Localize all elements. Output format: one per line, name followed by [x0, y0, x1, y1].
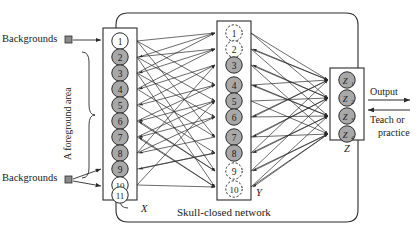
- svg-text:8: 8: [118, 149, 123, 159]
- svg-text:Z: Z: [343, 94, 348, 104]
- layer-y-label: Y: [256, 187, 262, 198]
- svg-text:11: 11: [116, 191, 125, 201]
- backgrounds-top-label: Backgrounds: [2, 33, 57, 44]
- svg-text:1: 1: [232, 29, 237, 39]
- backgrounds-bottom-label: Backgrounds: [2, 172, 57, 183]
- node-x-4: 4: [112, 81, 128, 97]
- node-y-8: 8: [226, 145, 242, 161]
- node-x-5: 5: [112, 97, 128, 113]
- teach-label-line1: Teach or: [370, 114, 405, 125]
- svg-text:1: 1: [351, 81, 354, 87]
- node-x-7: 7: [112, 129, 128, 145]
- network-title-label: Skull-closed network: [177, 206, 271, 218]
- node-y-1: 1: [226, 25, 242, 41]
- node-x-8: 8: [112, 145, 128, 161]
- output-label: Output: [370, 86, 398, 97]
- svg-text:9: 9: [232, 167, 237, 177]
- node-x-11: 11: [112, 187, 128, 203]
- svg-text:3: 3: [118, 69, 123, 79]
- svg-text:5: 5: [118, 101, 123, 111]
- svg-text:3: 3: [351, 117, 354, 123]
- node-z-4: Z4: [339, 126, 355, 142]
- node-y-9: 9: [226, 163, 242, 179]
- foreground-area-label: A foreground area: [62, 87, 73, 160]
- svg-text:6: 6: [232, 113, 237, 123]
- node-y-10: 10: [226, 181, 242, 197]
- svg-text:9: 9: [118, 165, 123, 175]
- node-y-7: 7: [226, 129, 242, 145]
- edges-y-to-z: [251, 33, 328, 187]
- svg-text:2: 2: [351, 99, 354, 105]
- svg-text:4: 4: [351, 135, 354, 141]
- foreground-brace: [82, 52, 95, 178]
- node-z-1: Z1: [339, 72, 355, 88]
- node-z-3: Z3: [339, 108, 355, 124]
- svg-text:Z: Z: [343, 76, 348, 86]
- network-diagram: 1 2 3 4 5 6 7 8 9 10 11 1 2 3 4 5 6 7 8 …: [0, 0, 420, 238]
- node-x-2: 2: [112, 49, 128, 65]
- network-title-text: Skull-closed network: [177, 206, 271, 218]
- output-arrows: [368, 100, 410, 110]
- svg-text:6: 6: [118, 117, 123, 127]
- svg-text:Z: Z: [343, 112, 348, 122]
- background-input-top: [65, 36, 101, 43]
- svg-text:8: 8: [232, 149, 237, 159]
- node-y-2: 2: [226, 41, 242, 57]
- svg-text:4: 4: [232, 81, 237, 91]
- edges-x-to-y: [137, 33, 215, 187]
- svg-text:5: 5: [232, 97, 237, 107]
- layer-x-label: X: [141, 203, 147, 214]
- svg-text:7: 7: [118, 133, 123, 143]
- layer-z-label: Z: [344, 143, 350, 154]
- node-x-6: 6: [112, 113, 128, 129]
- node-x-3: 3: [112, 65, 128, 81]
- svg-text:2: 2: [118, 53, 123, 63]
- svg-text:1: 1: [118, 37, 123, 47]
- node-x-1: 1: [112, 33, 128, 49]
- teach-label-line2: practice: [378, 127, 410, 138]
- node-y-3: 3: [226, 57, 242, 73]
- svg-text:4: 4: [118, 85, 123, 95]
- svg-text:2: 2: [232, 45, 237, 55]
- svg-text:10: 10: [230, 185, 240, 195]
- node-x-9: 9: [112, 161, 128, 177]
- layer-y-nodes: 1 2 3 4 5 6 7 8 9 10: [226, 25, 242, 197]
- node-y-5: 5: [226, 93, 242, 109]
- svg-text:Z: Z: [343, 130, 348, 140]
- svg-text:7: 7: [232, 133, 237, 143]
- node-z-2: Z2: [339, 90, 355, 106]
- node-y-4: 4: [226, 77, 242, 93]
- svg-text:3: 3: [232, 61, 237, 71]
- node-y-6: 6: [226, 109, 242, 125]
